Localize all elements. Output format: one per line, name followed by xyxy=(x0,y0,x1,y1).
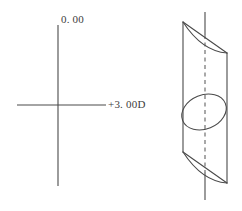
lens-front-surface-ellipse xyxy=(176,88,231,137)
optical-lens-figure: 0. 00 +3. 00D xyxy=(0,0,242,211)
vertical-meridian-power-label: 0. 00 xyxy=(61,14,84,25)
lens-body-group xyxy=(176,22,231,183)
horizontal-meridian-power-label: +3. 00D xyxy=(108,99,146,110)
power-cross-group xyxy=(17,25,106,186)
